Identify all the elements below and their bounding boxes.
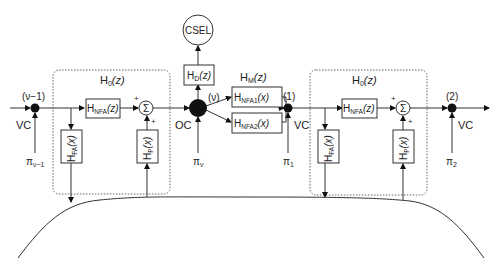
pi-nu: πν	[193, 156, 204, 168]
node-oc-label: (ν)	[208, 92, 220, 103]
hp-right-label: HP(x)	[398, 137, 410, 160]
node-2-side-label: VC	[458, 119, 473, 131]
pi-prev: πν−1	[26, 156, 44, 168]
pi-1: π1	[283, 156, 294, 168]
node-oc-side-label: OC	[175, 119, 192, 131]
node-1-label: (1)	[283, 91, 295, 102]
node-prev-side-label: VC	[16, 119, 31, 131]
node-oc	[189, 99, 207, 117]
node-prev	[31, 104, 40, 113]
right-summer-symbol: Σ	[400, 103, 406, 114]
hp-left-label: HP(x)	[142, 137, 154, 160]
right-summer-plus-bottom: +	[408, 117, 413, 126]
node-prev-label: (ν−1)	[22, 91, 45, 102]
left-h0-title: H0(z)	[100, 74, 125, 87]
node-1	[284, 104, 293, 113]
hm-title: HM(z)	[240, 71, 267, 84]
right-h0-title: H0(z)	[352, 74, 377, 87]
node-2	[448, 104, 457, 113]
node-1-side-label: VC	[294, 119, 309, 131]
hd-label: HD(z)	[187, 70, 211, 82]
csel-label: CSEL	[185, 25, 212, 36]
block-diagram: (ν−1) VC πν−1 (ν) OC πν (1) VC π1 (2) VC…	[0, 0, 499, 273]
left-summer-plus-bottom: +	[151, 117, 156, 126]
bottom-curve	[18, 197, 484, 258]
pi-2: π2	[446, 156, 457, 168]
wire	[206, 110, 231, 122]
left-summer-plus-top: +	[134, 94, 139, 103]
node-2-label: (2)	[446, 91, 458, 102]
right-summer-plus-top: +	[391, 94, 396, 103]
left-summer-symbol: Σ	[143, 103, 149, 114]
